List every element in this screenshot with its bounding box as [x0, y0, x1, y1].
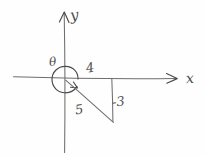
theta-angle-label: θ [48, 56, 56, 69]
x-axis [14, 74, 178, 84]
y-axis-line [64, 13, 65, 153]
hypotenuse-label: 5 [74, 102, 84, 116]
x-axis-label: x [186, 71, 195, 86]
x-axis-line [14, 77, 177, 79]
figure-canvas [0, 0, 205, 156]
hypotenuse-segment [66, 80, 114, 122]
coordinate-plane-figure: y x θ 4 -3 5 [0, 0, 205, 156]
opposite-leg-label: -3 [111, 94, 125, 108]
